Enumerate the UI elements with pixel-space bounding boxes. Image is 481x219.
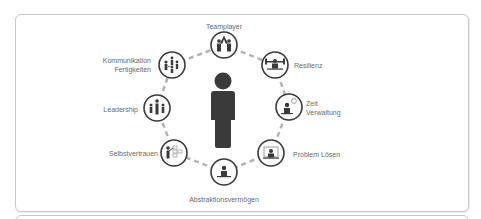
label-teamplayer: Teamplayer <box>206 22 242 31</box>
label-kommunikation-fertigkeiten: Kommunikation Fertigkeiten <box>103 56 151 74</box>
teamplayer-circle <box>211 32 237 58</box>
label-abstraktionsvermoegen: Abstraktionsvermögen <box>189 195 259 204</box>
label-verwaltung: Verwaltung <box>306 108 341 117</box>
label-leadership: Leadership <box>103 105 138 114</box>
skills-diagram <box>0 0 481 219</box>
label-selbstvertrauen: Selbstvertrauen <box>109 149 158 158</box>
label-zeit: Zeit <box>306 99 341 108</box>
label-resilienz: Resilienz <box>294 61 322 70</box>
label-zeit-verwaltung: Zeit Verwaltung <box>306 99 341 117</box>
person-icon <box>211 73 235 149</box>
label-kommunikation: Kommunikation <box>103 56 151 65</box>
zeit-verwaltung-circle <box>276 94 302 120</box>
label-fertigkeiten: Fertigkeiten <box>103 65 151 74</box>
label-problem-loesen: Problem Lösen <box>293 150 340 159</box>
